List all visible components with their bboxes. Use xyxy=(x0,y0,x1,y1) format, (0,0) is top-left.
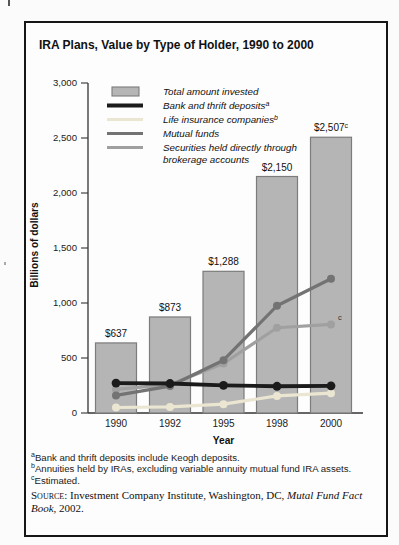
y-tick-label-0: 0 xyxy=(72,407,77,418)
legend-label-mutual-funds: Mutual funds xyxy=(163,128,219,139)
footnote-b: bAnnuities held by IRAs, excluding varia… xyxy=(31,463,379,474)
dot-bank-and-thrift-deposits-1992 xyxy=(166,379,175,388)
bar-1998 xyxy=(257,177,298,414)
y-axis-title: Billions of dollars xyxy=(29,202,40,288)
bar-value-label-1992: $873 xyxy=(159,302,182,313)
bar-value-label-1990: $637 xyxy=(105,328,128,339)
legend-label-securities-held-directly-through-brokerage-accounts-line2: brokerage accounts xyxy=(163,154,249,165)
bar-1990 xyxy=(96,343,137,413)
legend-swatch-total-amount-invested xyxy=(112,87,139,96)
y-tick-label-1-500: 1,500 xyxy=(53,242,77,253)
bar-1992 xyxy=(150,317,191,413)
legend-label-bank-and-thrift-deposits: Bank and thrift depositsa xyxy=(163,100,269,112)
x-tick-label-2000: 2000 xyxy=(320,418,343,429)
legend-label-total-amount-invested: Total amount invested xyxy=(163,86,259,97)
scan-speck xyxy=(4,262,6,265)
legend-label-securities-held-directly-through-brokerage-accounts: Securities held directly through xyxy=(163,142,297,153)
y-tick-label-2-000: 2,000 xyxy=(53,187,77,198)
page: IRA Plans, Value by Type of Holder, 1990… xyxy=(0,0,399,545)
chart-title: IRA Plans, Value by Type of Holder, 1990… xyxy=(39,38,314,52)
dot-life-insurance-companies-1992 xyxy=(166,403,174,411)
dot-mutual-funds-2000 xyxy=(327,275,335,283)
footnote-b-text: Annuities held by IRAs, excluding variab… xyxy=(35,463,351,474)
dot-bank-and-thrift-deposits-1995 xyxy=(219,381,228,390)
dot-bank-and-thrift-deposits-1990 xyxy=(112,379,121,388)
dot-mutual-funds-1995 xyxy=(220,356,228,364)
legend-label-life-insurance-companies: Life insurance companiesb xyxy=(163,114,278,126)
dot-mutual-funds-1990 xyxy=(112,391,120,399)
x-tick-label-1992: 1992 xyxy=(159,418,182,429)
bar-1995 xyxy=(203,271,244,413)
x-tick-label-1990: 1990 xyxy=(105,418,128,429)
source-line: Source: Investment Company Institute, Wa… xyxy=(31,489,381,515)
source-text: Investment Company Institute, Washington… xyxy=(67,489,287,501)
dot-life-insurance-companies-1990 xyxy=(112,404,120,412)
x-axis-title: Year xyxy=(213,435,235,446)
x-tick-label-1995: 1995 xyxy=(212,418,235,429)
dot-life-insurance-companies-1995 xyxy=(220,400,228,408)
bar-value-label-1995: $1,288 xyxy=(208,256,239,267)
dot-life-insurance-companies-2000 xyxy=(327,389,335,397)
dot-bank-and-thrift-deposits-1998 xyxy=(273,382,282,391)
y-tick-label-3-000: 3,000 xyxy=(53,77,77,88)
footnote-c-text: Estimated. xyxy=(35,475,80,486)
source-label: Source: xyxy=(31,489,67,501)
footnote-c: cEstimated. xyxy=(31,475,379,486)
dot-securities-held-directly-through-brokerage-accounts-1998 xyxy=(273,324,281,332)
chart-plot: 05001,0001,5002,0002,5003,000Billions of… xyxy=(27,72,385,454)
source-year: 2002. xyxy=(56,502,84,514)
bar-value-label-1998: $2,150 xyxy=(262,162,293,173)
dot-securities-held-directly-through-brokerage-accounts-2000 xyxy=(327,320,335,328)
y-tick-label-2-500: 2,500 xyxy=(53,132,77,143)
dot-mutual-funds-1998 xyxy=(273,302,281,310)
y-tick-label-500: 500 xyxy=(61,352,77,363)
footnote-a: aBank and thrift deposits include Keogh … xyxy=(31,452,379,463)
scan-artifact-mark xyxy=(8,0,10,6)
footnotes-block: aBank and thrift deposits include Keogh … xyxy=(31,452,379,486)
footnote-a-text: Bank and thrift deposits include Keogh d… xyxy=(35,452,240,463)
dot-life-insurance-companies-1998 xyxy=(273,392,281,400)
y-tick-label-1-000: 1,000 xyxy=(53,297,77,308)
dot-bank-and-thrift-deposits-2000 xyxy=(327,381,336,390)
bar-value-label-2000: $2,507c xyxy=(314,122,349,134)
x-tick-label-1998: 1998 xyxy=(266,418,289,429)
annotation-sup-c: c xyxy=(338,313,342,322)
